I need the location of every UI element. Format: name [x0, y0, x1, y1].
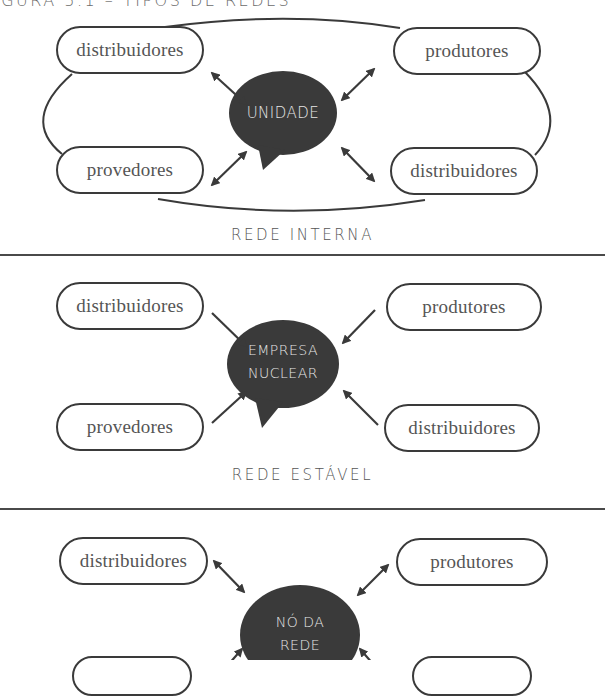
arrow-inward [343, 310, 375, 343]
node-produtores: produtores [396, 538, 548, 586]
center-label-line: NUCLEAR [233, 362, 333, 385]
center-label-no-da-rede: NÓ DA REDE [250, 611, 350, 657]
arrow-bidirectional [214, 561, 244, 592]
outer-loop-connector [525, 72, 550, 155]
node-distribuidores: distribuidores [390, 147, 538, 195]
center-label-empresa-nuclear: EMPRESA NUCLEAR [233, 339, 333, 385]
section-label-rede-interna: REDE INTERNA [0, 226, 605, 244]
section-label-rede-estavel: REDE ESTÁVEL [0, 466, 605, 484]
center-label-line: EMPRESA [233, 339, 333, 362]
center-label-unidade: UNIDADE [233, 102, 333, 125]
node-distribuidores: distribuidores [384, 404, 540, 452]
node-provedores: provedores [56, 403, 204, 451]
arrow-bidirectional [342, 148, 374, 181]
node-partial [72, 656, 192, 696]
node-distribuidores: distribuidores [56, 282, 204, 330]
outer-loop-connector [43, 74, 72, 154]
arrow-inward [212, 392, 246, 423]
node-produtores: produtores [386, 283, 542, 331]
section-divider [0, 254, 605, 256]
center-label-line: NÓ DA [250, 611, 350, 634]
arrow-bidirectional [228, 649, 242, 660]
arrow-inward [344, 391, 378, 425]
node-provedores: provedores [56, 146, 204, 194]
node-distribuidores: distribuidores [59, 537, 208, 585]
arrow-bidirectional [212, 152, 246, 185]
outer-loop-connector [165, 19, 400, 28]
node-distribuidores: distribuidores [56, 26, 204, 74]
arrow-bidirectional [358, 565, 388, 595]
bubble-tail [255, 398, 283, 428]
arrow-bidirectional [360, 649, 374, 660]
node-partial [412, 656, 532, 696]
outer-loop-connector [158, 199, 425, 211]
arrow-bidirectional [342, 69, 374, 100]
section-divider [0, 508, 605, 510]
center-label-line: REDE [250, 634, 350, 657]
node-produtores: produtores [393, 27, 541, 75]
